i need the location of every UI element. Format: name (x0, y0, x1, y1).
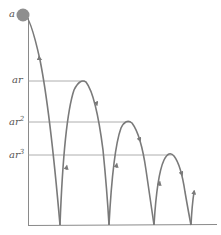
bounce-1-curve (60, 81, 109, 225)
arrow-down-icon (96, 102, 97, 104)
label-ar3-exp: 3 (20, 148, 24, 156)
label-ar2: ar2 (9, 116, 24, 127)
bounce-4-curve (191, 192, 194, 225)
arrow-up-icon (66, 167, 67, 170)
bouncing-ball-diagram (0, 0, 221, 235)
label-ar3: ar3 (9, 149, 24, 160)
label-ar: ar (12, 75, 23, 85)
drop-curve (24, 15, 60, 225)
bounce-2-curve (109, 121, 154, 225)
ball (17, 9, 30, 22)
arrow-up-icon (159, 183, 160, 186)
label-ar2-exp: 2 (20, 115, 24, 123)
bounce-3-curve (154, 154, 191, 225)
label-ar2-base: ar (9, 116, 20, 127)
x-axis (28, 225, 217, 226)
label-ar3-base: ar (9, 149, 20, 160)
arrow-up-icon (116, 165, 117, 168)
label-a: a (9, 9, 15, 19)
